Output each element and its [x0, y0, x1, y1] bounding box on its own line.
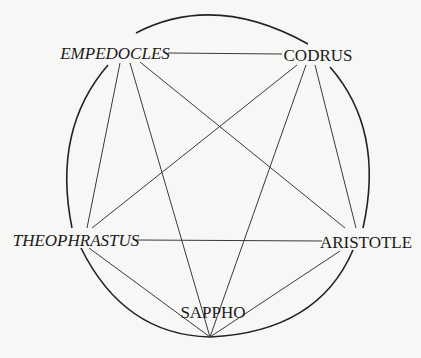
node-theophrastus: THEOPHRASTUS	[13, 231, 140, 250]
node-empedocles: EMPEDOCLES	[59, 44, 170, 63]
edge-codrus-sappho	[210, 65, 306, 337]
edge-theophrastus-sappho	[89, 248, 210, 337]
edge-codrus-aristotle	[315, 65, 356, 228]
node-aristotle: ARISTOTLE	[320, 233, 412, 252]
edge-codrus-theophrastus	[92, 65, 297, 228]
circle-arc-bottom-left	[81, 248, 210, 337]
circle-arc-left	[67, 65, 108, 228]
edges	[87, 53, 356, 337]
edge-empedocles-codrus	[168, 53, 282, 54]
philosophers-network-diagram: EMPEDOCLES CODRUS THEOPHRASTUS ARISTOTLE…	[0, 0, 421, 358]
node-codrus: CODRUS	[284, 46, 353, 65]
circle-arc-top	[136, 15, 308, 44]
node-labels: EMPEDOCLES CODRUS THEOPHRASTUS ARISTOTLE…	[13, 44, 412, 322]
circle-arc-bottom-right	[210, 250, 353, 337]
node-sappho: SAPPHO	[180, 303, 245, 322]
edge-empedocles-sappho	[130, 63, 210, 337]
edge-theophrastus-aristotle	[136, 240, 322, 241]
